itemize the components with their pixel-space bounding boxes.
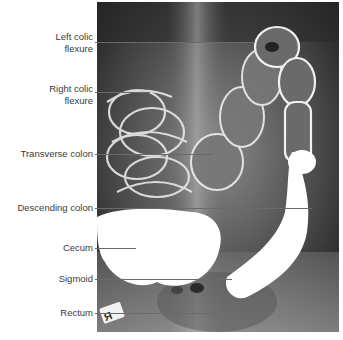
annotated-xray-figure: R Left colic flexure Right colic flexure… bbox=[0, 0, 343, 340]
label-right-colic-flexure: Right colic flexure bbox=[49, 83, 93, 107]
label-line: flexure bbox=[56, 43, 94, 55]
colon-xray-image: R bbox=[97, 2, 339, 332]
label-line: Rectum bbox=[60, 307, 93, 319]
label-line: Transverse colon bbox=[20, 148, 93, 160]
label-descending-colon: Descending colon bbox=[17, 202, 93, 214]
label-transverse-colon: Transverse colon bbox=[20, 148, 93, 160]
label-line: Cecum bbox=[63, 242, 93, 254]
label-sigmoid: Sigmoid bbox=[59, 273, 93, 285]
leader-rectum bbox=[95, 313, 218, 314]
leader-right-colic-flexure bbox=[95, 92, 150, 93]
label-line: Right colic bbox=[49, 83, 93, 95]
label-line: Left colic bbox=[56, 31, 94, 43]
label-left-colic-flexure: Left colic flexure bbox=[56, 31, 94, 55]
leader-transverse-colon bbox=[95, 154, 213, 155]
label-line: Descending colon bbox=[17, 202, 93, 214]
label-cecum: Cecum bbox=[63, 242, 93, 254]
label-line: flexure bbox=[49, 95, 93, 107]
leader-descending-colon bbox=[95, 208, 312, 209]
label-rectum: Rectum bbox=[60, 307, 93, 319]
leader-sigmoid bbox=[95, 279, 232, 280]
leader-cecum bbox=[95, 248, 136, 249]
label-line: Sigmoid bbox=[59, 273, 93, 285]
leader-left-colic-flexure bbox=[95, 42, 255, 43]
